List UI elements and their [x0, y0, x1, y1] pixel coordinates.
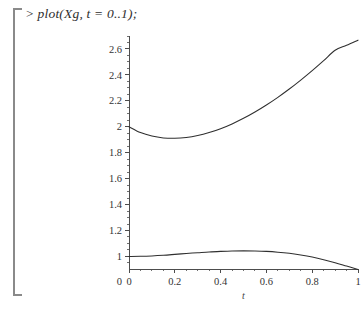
origin-label: 0 [117, 276, 122, 287]
plot-output[interactable]: 00.20.40.60.81 11.21.41.61.822.22.42.60 … [96, 26, 363, 310]
x-axis-label: t [242, 290, 245, 301]
y-tick-label: 2 [117, 121, 122, 132]
plot-curves [129, 40, 358, 269]
x-tick-label: 0.6 [260, 276, 273, 287]
input-command-text: plot(Xg, t = 0..1); [38, 6, 138, 22]
y-tick-label: 2.2 [109, 95, 122, 106]
plot-canvas: 00.20.40.60.81 11.21.41.61.822.22.42.60 … [96, 26, 363, 310]
y-axis-major-ticks [125, 49, 129, 256]
y-tick-label: 1.2 [109, 225, 122, 236]
y-tick-label: 1.4 [109, 199, 123, 210]
x-tick-label: 0.4 [214, 276, 228, 287]
x-tick-label: 0.8 [306, 276, 319, 287]
x-tick-label: 0 [126, 276, 131, 287]
x-tick-label: 0.2 [168, 276, 181, 287]
lower-curve [129, 251, 358, 270]
upper-curve [129, 40, 358, 138]
execution-group-bracket [13, 8, 27, 296]
y-axis-tick-labels: 11.21.41.61.822.22.42.60 [109, 44, 123, 288]
x-axis-tick-labels: 00.20.40.60.81 [126, 276, 360, 287]
maple-input-line[interactable]: > plot(Xg, t = 0..1); [26, 6, 137, 26]
y-tick-label: 1.6 [109, 173, 122, 184]
y-tick-label: 1.8 [109, 147, 122, 158]
y-tick-label: 1 [117, 251, 122, 262]
x-tick-label: 1 [355, 276, 360, 287]
input-prompt: > [26, 6, 34, 22]
y-tick-label: 2.4 [109, 70, 123, 81]
y-tick-label: 2.6 [109, 44, 122, 55]
